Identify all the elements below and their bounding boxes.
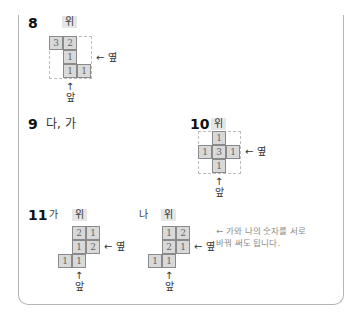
grid-cell: 1 [58, 254, 72, 268]
grid-cell: 1 [148, 254, 162, 268]
side-view-label: 옆 [108, 52, 117, 63]
option-na-label: 나 [139, 208, 148, 222]
problem-number: 8 [28, 16, 38, 30]
side-view-indicator: ← 옆 [96, 52, 117, 64]
arrow-left-icon: ← [96, 52, 104, 63]
side-view-indicator: ← 옆 [245, 146, 266, 158]
side-view-label: 옆 [257, 146, 266, 157]
grid-cell: 2 [176, 226, 190, 240]
grid-cell: 1 [72, 240, 86, 254]
grid-cell: 1 [63, 50, 77, 64]
arrow-up-icon: ↑ [63, 81, 77, 92]
front-view-label: 앞 [212, 187, 226, 198]
grid-cell: 1 [63, 64, 77, 78]
side-view-label: 옆 [206, 241, 215, 252]
option-ga-label: 가 [49, 208, 58, 222]
grid-cell: 2 [63, 36, 77, 50]
grid-cell: 2 [72, 226, 86, 240]
problem-number: 11 [28, 208, 47, 222]
side-view-label: 옆 [116, 241, 125, 252]
arrow-up-icon: ↑ [162, 270, 176, 281]
problem-number: 9 [28, 117, 38, 131]
answer-text: 다, 가 [46, 117, 76, 131]
front-view-label: 앞 [162, 281, 176, 292]
arrow-left-icon: ← [245, 146, 253, 157]
arrow-left-icon: ← [194, 241, 202, 252]
side-view-indicator: ← 옆 [104, 241, 125, 253]
grid-cell: 2 [86, 240, 100, 254]
note-text: ← 가와 나의 숫자를 서로 바꿔 써도 됩니다. [216, 225, 306, 249]
grid-cell: 1 [176, 240, 190, 254]
arrow-up-icon: ↑ [212, 176, 226, 187]
grid-cell: 1 [162, 226, 176, 240]
grid-cell: 1 [72, 254, 86, 268]
grid-cell: 2 [162, 240, 176, 254]
top-view-label: 위 [211, 118, 226, 130]
problem-number: 10 [190, 117, 209, 131]
top-view-label: 위 [72, 209, 87, 221]
arrow-up-icon: ↑ [72, 270, 86, 281]
top-view-label: 위 [62, 16, 77, 28]
side-view-indicator: ← 옆 [194, 241, 215, 253]
grid-cell: 1 [162, 254, 176, 268]
front-view-label: 앞 [63, 92, 77, 103]
top-view-label: 위 [161, 209, 176, 221]
grid-cell: 1 [212, 159, 226, 173]
grid-cell: 1 [198, 145, 212, 159]
grid-cell: 1 [212, 131, 226, 145]
grid-cell: 1 [77, 64, 91, 78]
grid-cell: 1 [226, 145, 240, 159]
grid-cell: 3 [49, 36, 63, 50]
arrow-left-icon: ← [104, 241, 112, 252]
grid-cell: 3 [212, 145, 226, 159]
front-view-label: 앞 [72, 281, 86, 292]
grid-cell: 1 [86, 226, 100, 240]
